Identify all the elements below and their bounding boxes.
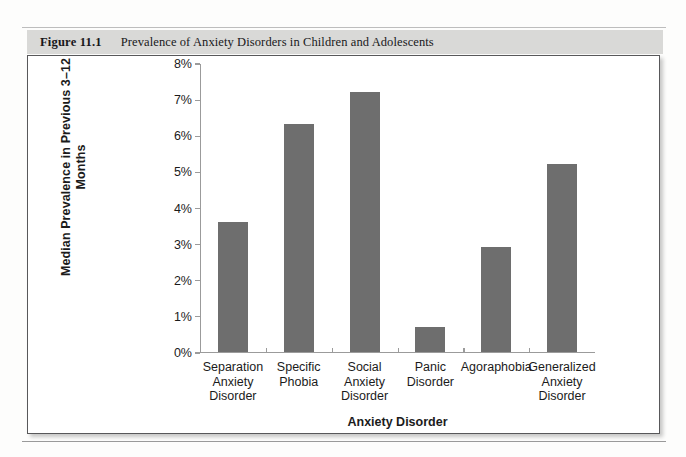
bar <box>218 222 248 352</box>
y-axis-tick-label: 7% <box>174 93 192 107</box>
x-axis-title: Anxiety Disorder <box>200 415 595 429</box>
y-axis-tick-label: 2% <box>174 274 192 288</box>
x-axis-tick <box>463 348 464 353</box>
plot-area: Anxiety Disorder 0%1%2%3%4%5%6%7%8%Separ… <box>200 64 648 353</box>
x-axis-tick <box>332 348 333 353</box>
bar <box>350 92 380 352</box>
bar <box>415 327 445 352</box>
y-axis-tick <box>195 352 200 353</box>
bar <box>481 247 511 352</box>
x-axis-tick <box>266 348 267 353</box>
y-axis-tick-label: 3% <box>174 238 192 252</box>
figure-frame: Median Prevalence in Previous 3–12 Month… <box>27 55 660 434</box>
page-rule-top <box>22 27 666 28</box>
page-rule-bottom <box>22 441 666 442</box>
y-axis-tick-label: 1% <box>174 310 192 324</box>
x-axis-tick <box>398 348 399 353</box>
y-axis-tick <box>195 316 200 317</box>
y-axis-tick-label: 4% <box>174 202 192 216</box>
x-axis-tick <box>529 348 530 353</box>
y-axis-tick-label: 6% <box>174 129 192 143</box>
figure-title: Prevalence of Anxiety Disorders in Child… <box>121 35 434 50</box>
y-axis-line <box>200 64 201 353</box>
figure-caption-banner: Figure 11.1 Prevalence of Anxiety Disord… <box>27 30 663 54</box>
y-axis-tick-label: 0% <box>174 346 192 360</box>
bar-chart: Median Prevalence in Previous 3–12 Month… <box>28 56 659 433</box>
y-axis-tick-label: 5% <box>174 165 192 179</box>
bar <box>547 164 577 352</box>
y-axis-tick <box>195 136 200 137</box>
y-axis-tick <box>195 63 200 64</box>
bar <box>284 124 314 352</box>
page-ghost-text-bottom <box>26 446 666 457</box>
y-axis-tick <box>195 172 200 173</box>
y-axis-tick <box>195 280 200 281</box>
y-axis-title: Median Prevalence in Previous 3–12 Month… <box>59 47 89 287</box>
y-axis-tick <box>195 208 200 209</box>
y-axis-tick <box>195 100 200 101</box>
page-ghost-text-top <box>18 2 668 24</box>
x-axis-category-label: Generalized Anxiety Disorder <box>523 360 601 404</box>
y-axis-tick <box>195 244 200 245</box>
y-axis-tick-label: 8% <box>174 57 192 71</box>
